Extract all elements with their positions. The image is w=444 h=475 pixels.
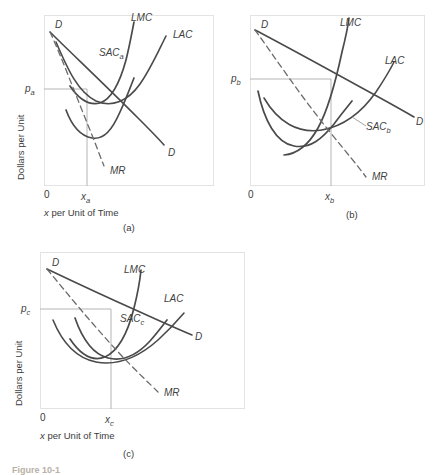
curve-lmc-a — [70, 22, 134, 104]
origin-label-b: 0 — [248, 190, 254, 200]
price-axis-label-a: pa — [25, 84, 35, 97]
price-axis-label-c: pc — [21, 304, 30, 317]
figure-caption: Figure 10-1 — [12, 466, 60, 475]
curve-label-demand-end-a: D — [168, 148, 175, 158]
curve-demand-b — [255, 30, 414, 117]
subcaption-b: (b) — [346, 210, 358, 220]
curve-label-demand-top-c: D — [52, 258, 59, 268]
panel-a: D D MR LMC LAC SACa pa xa 0 Dollars per … — [0, 0, 222, 236]
quantity-axis-label-b: xb — [325, 192, 334, 205]
curve-label-mr-c: MR — [164, 388, 180, 398]
origin-label-a: 0 — [44, 190, 50, 200]
panel-b: D D MR LMC LAC SACb pb xb 0 (b) — [222, 0, 444, 236]
curve-label-lmc-c: LMC — [124, 265, 145, 275]
curve-mr-a — [50, 32, 104, 166]
subcaption-a: (a) — [123, 223, 135, 233]
curve-lac-c — [53, 313, 184, 363]
curve-lmc-b — [284, 18, 349, 155]
quantity-axis-label-c: xc — [105, 415, 114, 428]
curve-label-lac-c: LAC — [164, 294, 183, 304]
y-axis-title-a: Dollars per Unit — [16, 115, 26, 180]
curve-mr-c — [47, 269, 158, 392]
x-axis-title-a: x per Unit of Time — [44, 208, 118, 218]
curve-label-mr-a: MR — [110, 166, 126, 176]
curve-label-sac-b: SACb — [366, 122, 391, 135]
origin-label-c: 0 — [40, 413, 46, 423]
curve-label-demand-top-a: D — [55, 20, 62, 30]
subcaption-c: (c) — [123, 449, 134, 459]
leader-line-sac-b — [352, 117, 366, 126]
curve-sac-a — [66, 78, 134, 138]
curve-label-lac-b: LAC — [385, 56, 404, 66]
curve-label-sac-c: SACc — [120, 314, 144, 327]
curve-label-lmc-b: LMC — [340, 18, 361, 28]
curve-label-sac-a: SACa — [99, 48, 124, 61]
panel-c: D D MR LMC LAC SACc pc xc 0 Dollars per … — [0, 236, 270, 473]
quantity-axis-label-a: xa — [81, 192, 90, 205]
y-axis-title-c: Dollars per Unit — [14, 341, 24, 406]
curve-label-demand-top-b: D — [261, 20, 268, 30]
curve-label-mr-b: MR — [372, 172, 388, 182]
curve-label-demand-end-b: D — [416, 117, 423, 127]
price-axis-label-b: pb — [231, 74, 241, 87]
curve-label-lac-a: LAC — [173, 30, 192, 40]
curve-label-demand-end-c: D — [195, 332, 202, 342]
x-axis-title-c: x per Unit of Time — [40, 431, 114, 441]
curve-label-lmc-a: LMC — [131, 13, 152, 23]
